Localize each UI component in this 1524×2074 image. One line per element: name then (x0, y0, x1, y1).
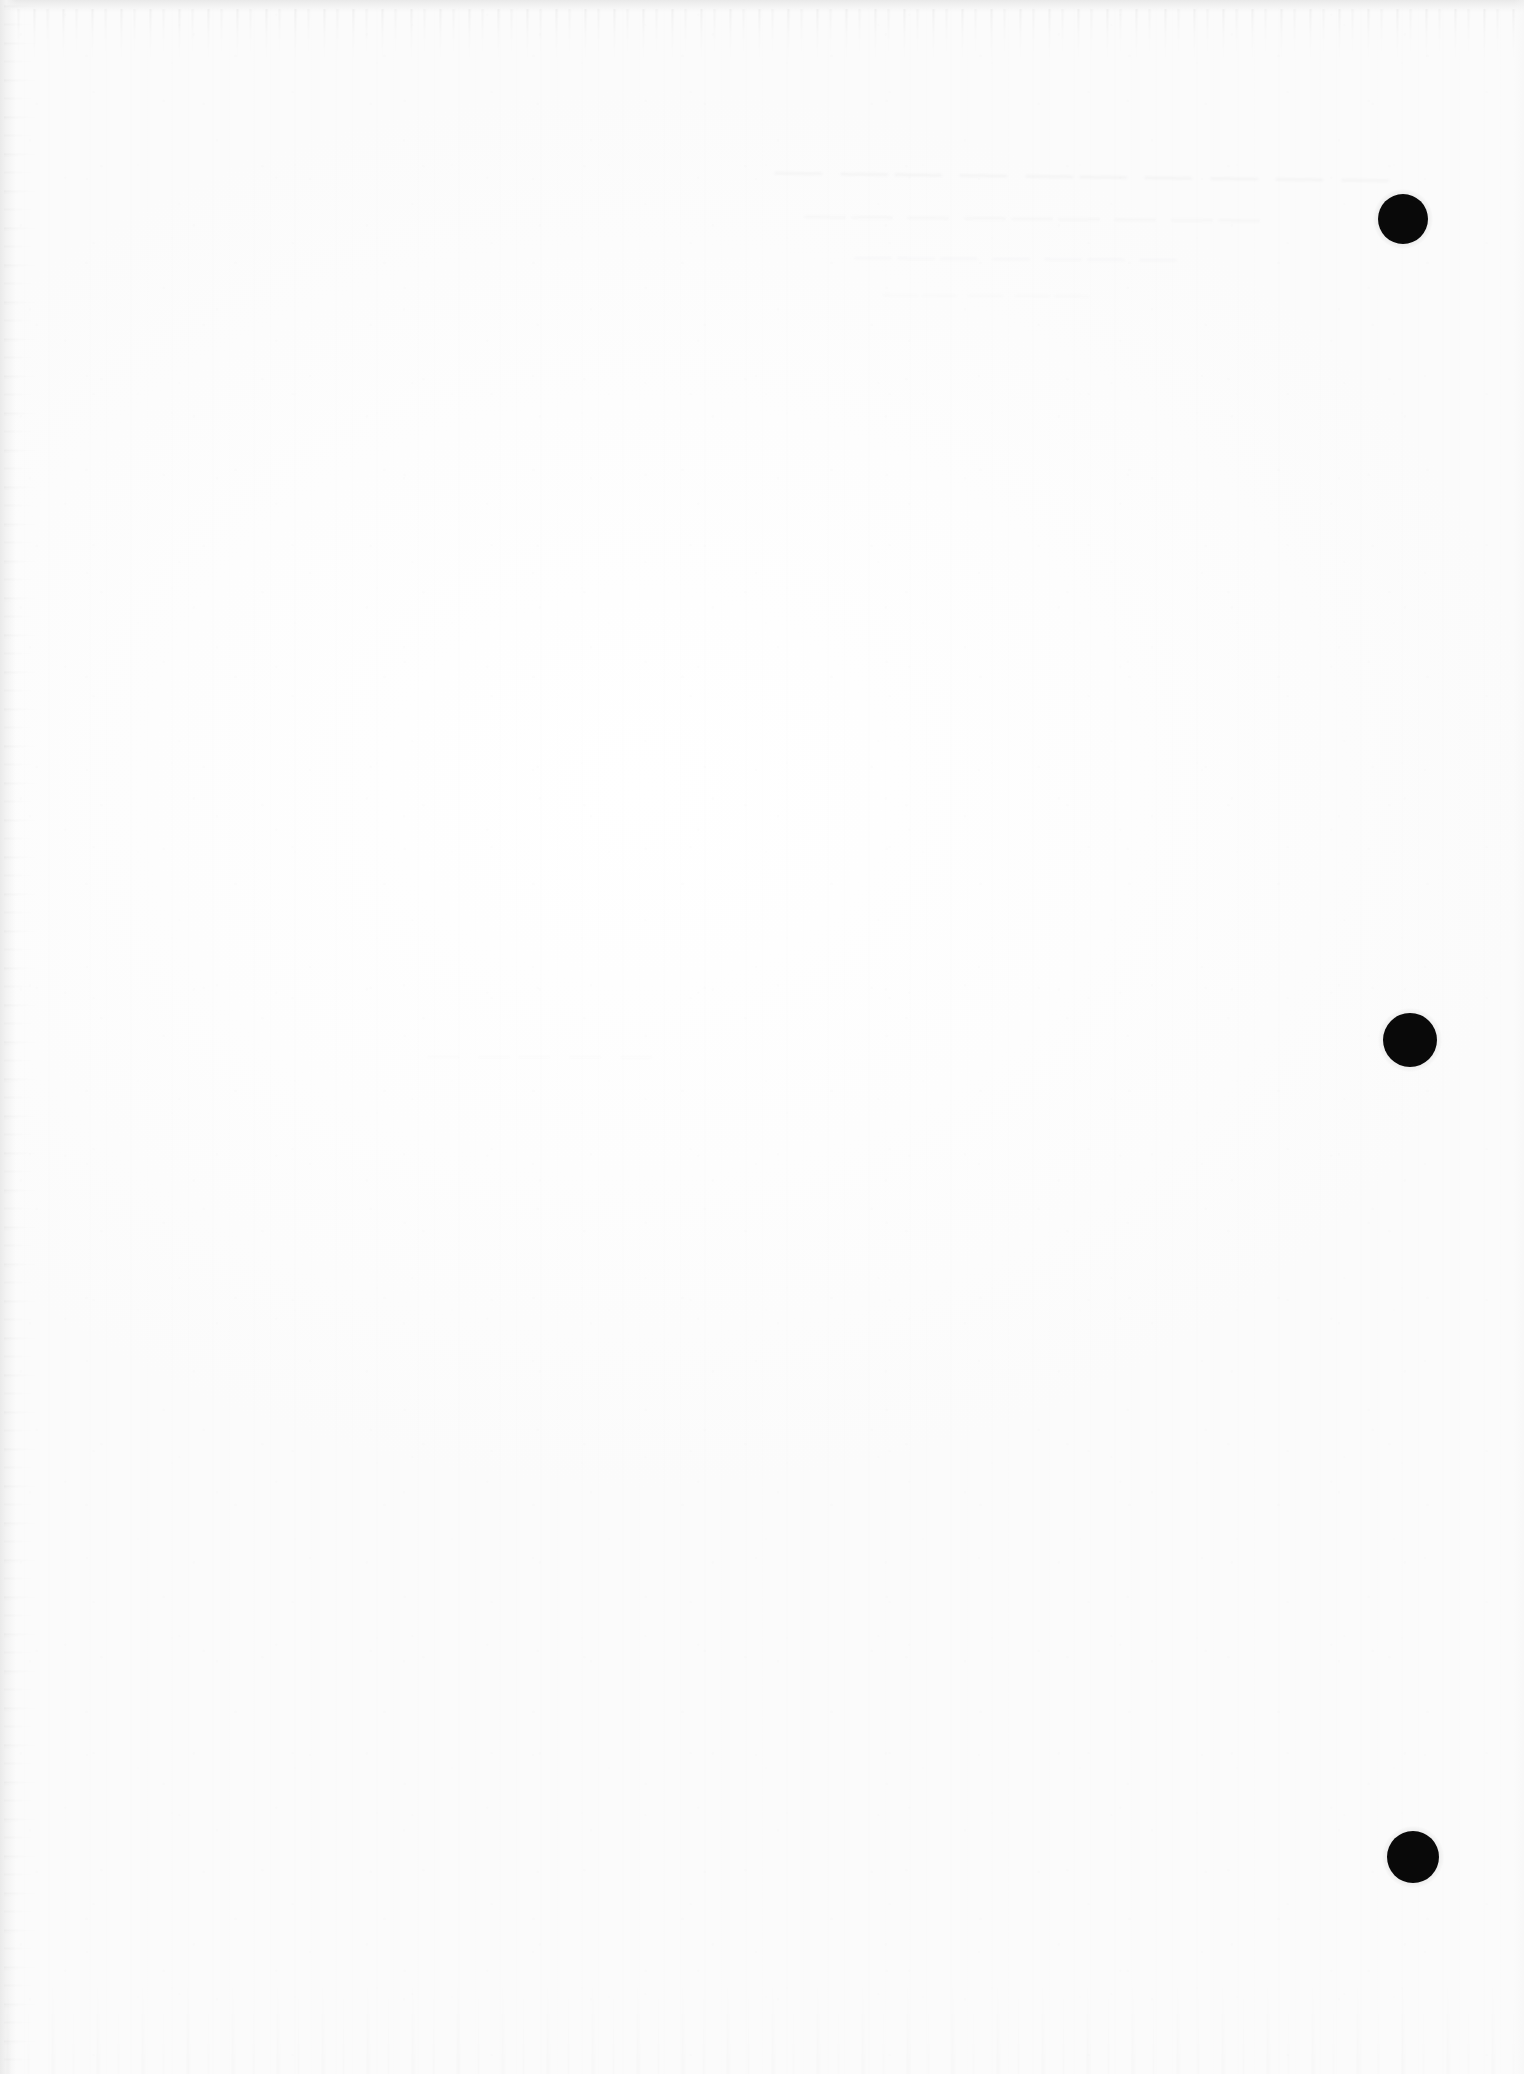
scan-edge-bottom-streaks (0, 1944, 1524, 2074)
punch-hole-bottom-icon (1387, 1831, 1439, 1883)
punch-hole-middle-icon (1383, 1013, 1437, 1067)
ghost-showthrough-line-3: ⸺ ⸺⸺ ⸺ ⸺⸺⸺ (850, 237, 1178, 274)
punch-hole-top-icon (1378, 194, 1428, 244)
ghost-showthrough-line-5: ⸺ ⸺ ⸺⸺ ⸺ (420, 1040, 653, 1070)
page-body-text (110, 330, 1290, 1830)
scan-edge-right (1514, 0, 1524, 2074)
ghost-showthrough-line-1: ⸺ ⸺ ⸺ ⸺ ⸺⸺ ⸺ ⸺⸺ ⸺ (770, 146, 1391, 198)
ghost-showthrough-line-2: ⸺⸺ ⸺ ⸺⸺⸺ ⸺ ⸺⸺ (800, 194, 1261, 235)
scan-edge-left-fringe (4, 0, 48, 2074)
scan-edge-top-fringe (0, 9, 1524, 71)
scanned-page: ⸺ ⸺ ⸺ ⸺ ⸺⸺ ⸺ ⸺⸺ ⸺ ⸺⸺ ⸺ ⸺⸺⸺ ⸺ ⸺⸺ ⸺ ⸺⸺ ⸺ ⸺… (0, 0, 1524, 2074)
ghost-showthrough-line-4: ⸺⸺ ⸺ ⸺⸺ (880, 275, 1090, 308)
